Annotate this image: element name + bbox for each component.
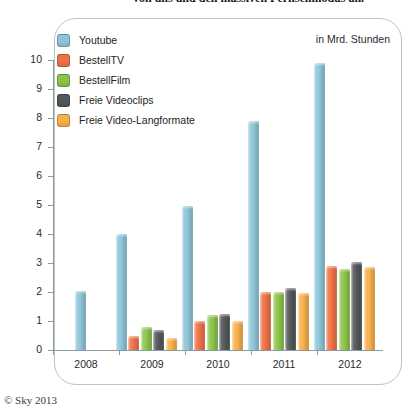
x-axis-tick — [251, 350, 252, 355]
x-axis-tick — [53, 350, 54, 355]
bar — [364, 267, 375, 350]
x-axis-tick — [185, 350, 186, 355]
legend-label: Youtube — [79, 34, 117, 46]
bar — [75, 291, 86, 350]
legend-label: Freie Videoclips — [79, 94, 154, 106]
legend-item[interactable]: Freie Video-Langformate — [57, 110, 195, 130]
bar — [219, 314, 230, 350]
legend-label: BestellFilm — [79, 74, 130, 86]
legend-swatch-icon — [57, 74, 70, 87]
bar — [273, 292, 284, 350]
y-axis-tick — [48, 292, 54, 293]
bar — [314, 63, 325, 350]
y-axis-tick-label: 9 — [14, 82, 42, 94]
legend-swatch-icon — [57, 54, 70, 67]
legend-item[interactable]: Youtube — [57, 30, 195, 50]
x-axis-tick-label: 2009 — [128, 358, 176, 370]
bar — [128, 336, 139, 351]
legend-item[interactable]: BestellFilm — [57, 70, 195, 90]
legend-swatch-icon — [57, 34, 70, 47]
bar — [248, 121, 259, 350]
footer-credit: © Sky 2013 — [4, 394, 57, 406]
x-axis-tick — [317, 350, 318, 355]
y-axis-tick-label: 7 — [14, 140, 42, 152]
bar — [351, 262, 362, 350]
y-axis-tick — [48, 205, 54, 206]
bar — [207, 315, 218, 350]
bar — [182, 206, 193, 350]
bar — [116, 234, 127, 350]
y-axis-tick — [48, 176, 54, 177]
y-axis-tick — [48, 147, 54, 148]
y-axis-tick — [48, 321, 54, 322]
legend-swatch-icon — [57, 114, 70, 127]
axis-unit-label: in Mrd. Stunden — [316, 33, 390, 45]
x-axis-tick — [119, 350, 120, 355]
y-axis-tick — [48, 60, 54, 61]
bar — [339, 269, 350, 350]
chart-legend: YoutubeBestellTVBestellFilmFreie Videocl… — [57, 30, 195, 130]
bar — [285, 288, 296, 350]
y-axis-tick-label: 0 — [14, 343, 42, 355]
legend-label: BestellTV — [79, 54, 124, 66]
y-axis-tick — [48, 234, 54, 235]
bar — [194, 321, 205, 350]
y-axis-tick-label: 5 — [14, 198, 42, 210]
x-axis-tick-label: 2011 — [260, 358, 308, 370]
legend-item[interactable]: Freie Videoclips — [57, 90, 195, 110]
bar — [326, 266, 337, 350]
x-axis-line — [53, 350, 383, 351]
y-axis-tick-label: 1 — [14, 314, 42, 326]
y-axis-tick-label: 4 — [14, 227, 42, 239]
bar — [298, 293, 309, 350]
y-axis-tick-label: 8 — [14, 111, 42, 123]
x-axis-tick-label: 2012 — [326, 358, 374, 370]
y-axis-tick-label: 3 — [14, 256, 42, 268]
legend-swatch-icon — [57, 94, 70, 107]
x-axis-tick-label: 2008 — [62, 358, 110, 370]
bar — [260, 292, 271, 350]
y-axis-tick — [48, 89, 54, 90]
y-axis-tick — [48, 118, 54, 119]
y-axis-tick-label: 10 — [14, 53, 42, 65]
bar — [153, 330, 164, 350]
legend-label: Freie Video-Langformate — [79, 114, 195, 126]
bar — [232, 321, 243, 350]
y-axis-tick — [48, 263, 54, 264]
bar — [141, 327, 152, 350]
x-axis-tick-label: 2010 — [194, 358, 242, 370]
y-axis-tick-label: 2 — [14, 285, 42, 297]
bar — [166, 338, 177, 350]
y-axis-tick-label: 6 — [14, 169, 42, 181]
chart-plot-area: in Mrd. Stunden YoutubeBestellTVBestellF… — [0, 0, 412, 390]
legend-item[interactable]: BestellTV — [57, 50, 195, 70]
